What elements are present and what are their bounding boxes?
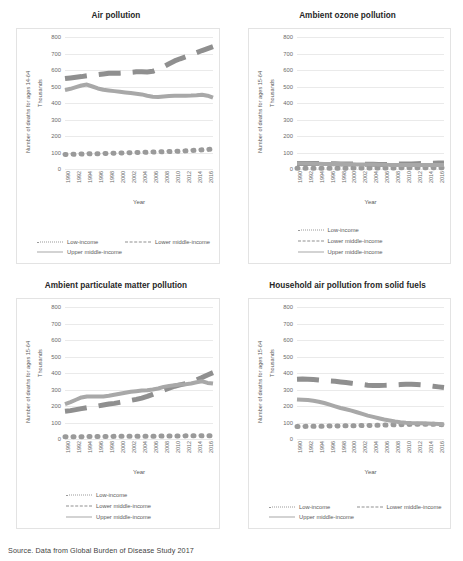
legend-label: Upper middle-income bbox=[67, 249, 122, 255]
x-axis-label: Year bbox=[65, 199, 213, 205]
chart-title: Ambient ozone pollution bbox=[232, 0, 463, 20]
y-axis-ticks: 8007006005004003002001000 bbox=[275, 307, 295, 439]
x-tick-label: 2000 bbox=[120, 171, 126, 197]
x-tick-label: 1998 bbox=[109, 441, 115, 467]
y-tick-label: 300 bbox=[283, 117, 293, 123]
x-tick-label: 1996 bbox=[330, 171, 336, 197]
solid-line-icon bbox=[66, 514, 92, 520]
x-tick-label: 2004 bbox=[142, 441, 148, 467]
y-tick-label: 700 bbox=[283, 51, 293, 57]
axis-area: Number of deaths for ages 15-64 Thousand… bbox=[17, 299, 219, 474]
axis-area: Number of deaths for ages 15-64 Thousand… bbox=[249, 299, 450, 474]
y-tick-label: 100 bbox=[51, 150, 61, 156]
y-tick-label: 500 bbox=[51, 84, 61, 90]
x-tick-label: 2006 bbox=[384, 441, 390, 467]
x-tick-label: 1990 bbox=[297, 171, 303, 197]
legend-label: Low-income bbox=[299, 504, 330, 510]
x-tick-label: 2010 bbox=[175, 171, 181, 197]
axis-area: Number of deaths for ages 15-64 Thousand… bbox=[249, 29, 450, 204]
y-tick-label: 200 bbox=[283, 133, 293, 139]
y-axis-label: Number of deaths for ages 15-64 bbox=[23, 307, 33, 457]
x-tick-label: 2008 bbox=[164, 441, 170, 467]
x-tick-label: 1990 bbox=[65, 441, 71, 467]
x-tick-label: 2012 bbox=[417, 171, 423, 197]
series-canvas bbox=[65, 307, 213, 439]
x-tick-label: 2010 bbox=[406, 441, 412, 467]
y-tick-label: 800 bbox=[283, 34, 293, 40]
x-tick-label: 2010 bbox=[406, 171, 412, 197]
x-tick-label: 1994 bbox=[87, 171, 93, 197]
x-tick-label: 1996 bbox=[98, 171, 104, 197]
x-tick-label: 2010 bbox=[175, 441, 181, 467]
y-tick-label: 800 bbox=[283, 304, 293, 310]
chart-title: Household air pollution from solid fuels bbox=[232, 270, 463, 290]
legend-item-upper-middle-income: Upper middle-income bbox=[37, 249, 125, 255]
y-axis-label: Number of deaths for ages 14-64 bbox=[23, 37, 33, 187]
legend: Low-income Lower middle-income Upper mid… bbox=[23, 492, 213, 520]
solid-line-icon bbox=[298, 249, 324, 255]
x-tick-label: 1998 bbox=[341, 171, 347, 197]
legend-label: Lower middle-income bbox=[387, 504, 442, 510]
series-line bbox=[297, 399, 444, 424]
source-note: Source. Data from Global Burden of Disea… bbox=[8, 546, 194, 555]
y-tick-label: 200 bbox=[51, 133, 61, 139]
plot-area bbox=[297, 37, 444, 169]
y-axis-label: Number of deaths for ages 15-64 bbox=[255, 37, 265, 187]
x-tick-label: 2014 bbox=[197, 171, 203, 197]
legend-label: Upper middle-income bbox=[299, 514, 354, 520]
legend-item-low-income: Low-income bbox=[37, 239, 125, 245]
x-tick-label: 1998 bbox=[341, 441, 347, 467]
dotted-line-icon bbox=[66, 492, 92, 498]
legend-item-lower-middle-income: Lower middle-income bbox=[125, 239, 213, 245]
x-tick-label: 2006 bbox=[153, 171, 159, 197]
y-tick-label: 800 bbox=[51, 304, 61, 310]
x-tick-label: 2012 bbox=[417, 441, 423, 467]
x-axis-label: Year bbox=[297, 199, 444, 205]
y-axis-ticks: 8007006005004003002001000 bbox=[43, 307, 63, 439]
x-tick-label: 2004 bbox=[142, 171, 148, 197]
series-line bbox=[65, 47, 213, 79]
y-axis-label: Number of deaths for ages 15-64 bbox=[255, 307, 265, 457]
legend-item-low-income: Low-income bbox=[298, 227, 402, 233]
legend-label: Low-income bbox=[67, 239, 98, 245]
x-tick-label: 1996 bbox=[98, 441, 104, 467]
y-tick-label: 600 bbox=[51, 67, 61, 73]
panel-household-air-pollution-solid-fuels: Household air pollution from solid fuels… bbox=[232, 270, 463, 535]
legend-item-upper-middle-income: Upper middle-income bbox=[298, 249, 402, 255]
legend: Low-income Lower middle-income Upper mid… bbox=[255, 504, 444, 520]
y-tick-label: 600 bbox=[51, 337, 61, 343]
y-tick-label: 400 bbox=[283, 370, 293, 376]
series-canvas bbox=[297, 37, 444, 169]
y-tick-label: 500 bbox=[51, 354, 61, 360]
legend-item-upper-middle-income: Upper middle-income bbox=[269, 514, 357, 520]
series-canvas bbox=[65, 37, 213, 169]
x-tick-label: 1992 bbox=[76, 441, 82, 467]
x-tick-label: 2002 bbox=[131, 441, 137, 467]
legend-item-lower-middle-income: Lower middle-income bbox=[357, 504, 445, 510]
legend-item-low-income: Low-income bbox=[269, 504, 357, 510]
y-tick-label: 200 bbox=[283, 403, 293, 409]
x-tick-label: 1998 bbox=[109, 171, 115, 197]
legend-label: Lower middle-income bbox=[96, 503, 151, 509]
y-tick-label: 500 bbox=[283, 84, 293, 90]
x-axis-ticks: 1990199219941996199820002002200420062008… bbox=[297, 441, 444, 467]
legend-label: Upper middle-income bbox=[328, 249, 383, 255]
series-line bbox=[65, 436, 213, 437]
y-tick-label: 300 bbox=[283, 387, 293, 393]
y-tick-label: 600 bbox=[283, 67, 293, 73]
legend: Low-income Lower middle-income Upper mid… bbox=[255, 227, 444, 255]
x-axis-label: Year bbox=[297, 469, 444, 475]
dashed-line-icon bbox=[66, 503, 92, 509]
y-axis-ticks: 8007006005004003002001000 bbox=[43, 37, 63, 169]
dashed-line-icon bbox=[298, 238, 324, 244]
legend-label: Low-income bbox=[328, 227, 359, 233]
y-tick-label: 100 bbox=[283, 420, 293, 426]
legend-item-lower-middle-income: Lower middle-income bbox=[66, 503, 170, 509]
y-tick-label: 400 bbox=[51, 370, 61, 376]
x-tick-label: 2004 bbox=[373, 441, 379, 467]
x-tick-label: 1994 bbox=[319, 171, 325, 197]
x-tick-label: 1992 bbox=[308, 171, 314, 197]
series-canvas bbox=[297, 307, 444, 439]
x-tick-label: 2002 bbox=[131, 171, 137, 197]
y-tick-label: 600 bbox=[283, 337, 293, 343]
